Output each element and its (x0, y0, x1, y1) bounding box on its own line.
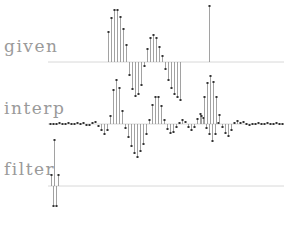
stem-marker (282, 123, 284, 125)
stem-marker (249, 124, 251, 126)
stem-marker (191, 129, 193, 131)
stem-marker (107, 129, 109, 131)
stem-marker (92, 122, 94, 124)
stem-marker (164, 119, 166, 121)
stem-marker (174, 93, 176, 95)
stem-marker (95, 121, 97, 123)
stem-marker (53, 205, 55, 207)
stem-marker (120, 16, 122, 18)
stem-marker (62, 123, 64, 125)
stem-marker (215, 133, 217, 135)
stem-marker (56, 123, 58, 125)
stem-marker (134, 152, 136, 154)
stem-marker (116, 79, 118, 81)
stem-marker (255, 123, 257, 125)
stem-marker (65, 123, 67, 125)
stem-marker (51, 174, 53, 176)
stem-marker (267, 122, 269, 124)
stem-marker (59, 122, 61, 124)
stem-marker (140, 150, 142, 152)
stem-marker (179, 122, 181, 124)
stem-marker (252, 123, 254, 125)
stem-marker (152, 104, 154, 106)
stem-marker (173, 131, 175, 133)
stem-marker (156, 37, 158, 39)
stem-marker (108, 31, 110, 33)
stem-marker (122, 110, 124, 112)
stem-marker (206, 127, 208, 129)
stem-marker (276, 122, 278, 124)
stem-marker (209, 133, 211, 135)
stem-marker (147, 48, 149, 50)
stem-plot-figure (0, 0, 299, 233)
stem-marker (74, 123, 76, 125)
stem-marker (222, 126, 224, 128)
stem-marker (243, 121, 245, 123)
stem-marker (200, 113, 202, 115)
stem-marker (204, 96, 206, 98)
stem-marker (165, 68, 167, 70)
stem-marker (168, 79, 170, 81)
stem-marker (132, 88, 134, 90)
stem-marker (210, 75, 212, 77)
stem-marker (185, 121, 187, 123)
stem-marker (158, 96, 160, 98)
stem-marker (176, 126, 178, 128)
stem-marker (237, 120, 239, 122)
stem-marker (188, 126, 190, 128)
stem-marker (143, 143, 145, 145)
stem-marker (261, 123, 263, 125)
stem-marker (86, 124, 88, 126)
stem-marker (125, 127, 127, 129)
stem-marker (77, 122, 79, 124)
panel-given (48, 5, 284, 101)
stem-marker (135, 95, 137, 97)
stem-marker (207, 82, 209, 84)
stem-marker (83, 122, 85, 124)
stem-marker (264, 123, 266, 125)
stem-marker (113, 89, 115, 91)
stem-marker (110, 115, 112, 117)
stem-marker (182, 119, 184, 121)
stem-marker (89, 124, 91, 126)
stem-marker (180, 99, 182, 101)
panel-interp (48, 75, 284, 158)
stem-marker (159, 46, 161, 48)
stem-marker (216, 96, 218, 98)
stem-marker (219, 114, 221, 116)
stem-marker (155, 96, 157, 98)
stem-marker (194, 126, 196, 128)
stem-marker (161, 105, 163, 107)
stem-marker (123, 28, 125, 30)
stem-marker (68, 122, 70, 124)
stem-marker (197, 118, 199, 120)
stem-marker (111, 17, 113, 19)
panel-filter (48, 139, 284, 207)
stem-marker (273, 123, 275, 125)
stem-marker (212, 140, 214, 142)
stem-marker (270, 123, 272, 125)
stem-marker (201, 115, 203, 117)
stem-marker (128, 136, 130, 138)
stem-marker (240, 122, 242, 124)
stem-marker (150, 37, 152, 39)
stem-marker (228, 135, 230, 137)
stem-marker (162, 55, 164, 57)
stem-marker (71, 123, 73, 125)
stem-marker (126, 44, 128, 46)
stem-marker (234, 122, 236, 124)
stem-marker (129, 74, 131, 76)
stem-marker (177, 96, 179, 98)
stem-marker (170, 132, 172, 134)
stem-marker (98, 125, 100, 127)
stem-marker (54, 139, 56, 141)
stem-marker (119, 87, 121, 89)
stem-marker (146, 133, 148, 135)
stem-marker (50, 123, 52, 125)
stem-marker (117, 9, 119, 11)
stem-marker (131, 145, 133, 147)
stem-marker (279, 123, 281, 125)
stem-marker (104, 133, 106, 135)
stem-marker (231, 129, 233, 131)
stem-marker (56, 205, 58, 207)
